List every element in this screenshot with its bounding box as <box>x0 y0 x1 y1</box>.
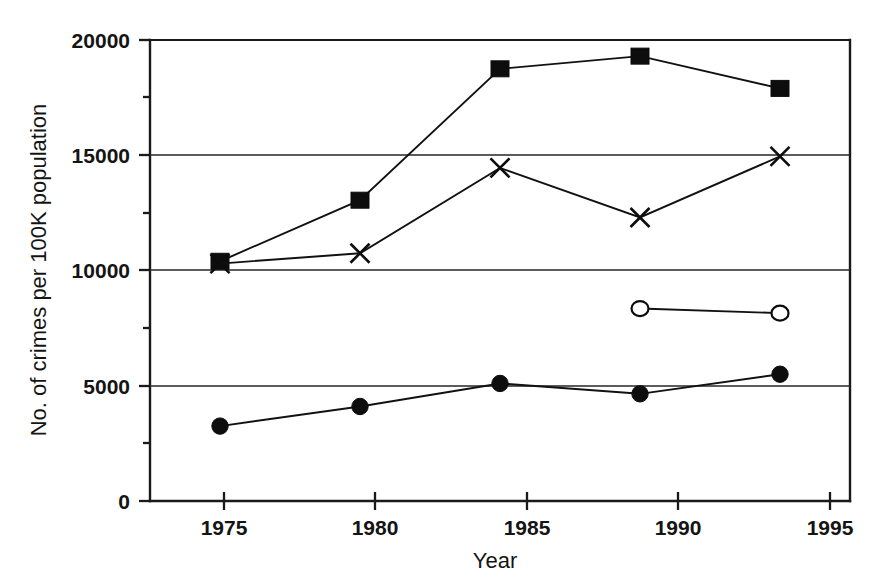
y-tick-labels: 20000 15000 10000 5000 0 <box>72 29 130 513</box>
ytick-label-15000: 15000 <box>72 144 130 167</box>
x-axis-title: Year <box>473 548 517 573</box>
series-filled-circle-series <box>212 366 788 434</box>
marker-cross-1985 <box>491 158 510 177</box>
marker-filled-square-1980 <box>351 192 369 208</box>
gridlines <box>150 155 850 386</box>
series-line-filled-square <box>220 56 780 261</box>
y-axis-ticks <box>139 40 150 501</box>
series-open-circle-series <box>632 301 789 321</box>
x-tick-labels: 1975 1980 1985 1990 1995 <box>201 516 854 539</box>
series-layer <box>211 48 790 434</box>
marker-filled-square-1985 <box>491 61 509 77</box>
xtick-label-1990: 1990 <box>655 516 702 539</box>
xtick-label-1975: 1975 <box>201 516 248 539</box>
ytick-label-20000: 20000 <box>72 29 130 52</box>
series-line-cross <box>220 156 780 263</box>
marker-filled-circle-1975 <box>212 418 228 434</box>
series-filled-square-series <box>211 48 789 269</box>
marker-filled-square-1995 <box>771 80 789 96</box>
y-axis-title: No. of crimes per 100K population <box>26 104 51 437</box>
line-chart-figure: 20000 15000 10000 5000 0 1975 1980 1985 … <box>0 0 886 581</box>
marker-open-circle-1995 <box>772 306 789 321</box>
marker-filled-circle-1985 <box>492 375 508 391</box>
series-cross-series <box>211 147 790 273</box>
ytick-label-5000: 5000 <box>83 375 130 398</box>
marker-filled-square-1990 <box>631 48 649 64</box>
xtick-label-1980: 1980 <box>352 516 399 539</box>
marker-filled-circle-1995 <box>772 366 788 382</box>
marker-cross-1995 <box>771 147 790 166</box>
chart-canvas: 20000 15000 10000 5000 0 1975 1980 1985 … <box>0 0 886 581</box>
series-line-open-circle <box>640 309 780 314</box>
marker-open-circle-1990 <box>632 301 649 316</box>
ytick-label-10000: 10000 <box>72 259 130 282</box>
marker-filled-circle-1990 <box>632 386 648 402</box>
marker-filled-circle-1980 <box>352 398 368 414</box>
xtick-label-1995: 1995 <box>807 516 854 539</box>
ytick-label-0: 0 <box>118 490 130 513</box>
marker-cross-1990 <box>631 208 650 227</box>
xtick-label-1985: 1985 <box>504 516 551 539</box>
